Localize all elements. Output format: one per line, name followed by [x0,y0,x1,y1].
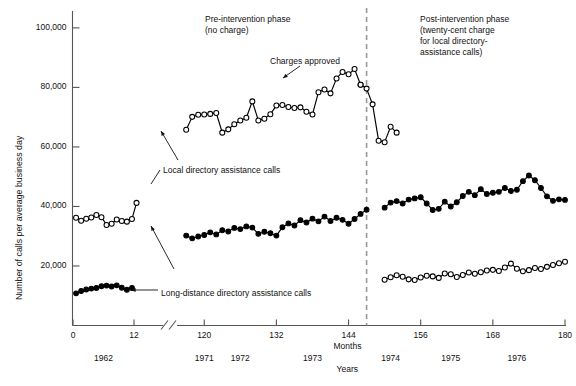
data-point [79,218,84,223]
data-point [527,173,532,178]
data-point [358,211,363,216]
data-point [124,219,129,224]
data-point [89,215,94,220]
data-point [454,274,459,279]
data-point [394,199,399,204]
data-point [556,261,561,266]
data-point [226,229,231,234]
x-axis-title: Months [334,341,362,351]
post-intervention-label-line-1: Post-intervention phase [420,14,509,25]
data-point [114,283,119,288]
data-point [232,122,237,127]
data-point [563,198,568,203]
data-point [436,206,441,211]
data-point [280,225,285,230]
data-point [539,186,544,191]
pre-intervention-label-line-2: (no charge) [205,25,291,36]
data-point [184,127,189,132]
data-point [304,220,309,225]
data-point [286,221,291,226]
data-point [502,186,507,191]
data-point [514,266,519,271]
data-point [109,221,114,226]
data-point [274,233,279,238]
data-point [190,114,195,119]
data-point [119,219,124,224]
local-series-label-line-1: Local directory assistance calls [163,165,280,176]
data-point [521,179,526,184]
data-point [545,194,550,199]
data-point [430,274,435,279]
data-point [250,99,255,104]
charges-approved-label-line-1: Charges approved [270,56,340,67]
data-point [256,118,261,123]
data-point [424,273,429,278]
data-point [316,219,321,224]
data-point [220,228,225,233]
data-point [382,277,387,282]
data-point [74,215,79,220]
data-point [388,124,393,129]
data-point [268,231,273,236]
local-series-label: Local directory assistance calls [163,165,280,176]
axis-break-slash-2 [169,321,176,330]
data-point [484,268,489,273]
data-point [292,223,297,228]
data-point [268,112,273,117]
data-point [436,275,441,280]
data-point [114,217,119,222]
data-point [124,287,129,292]
data-point [99,215,104,220]
data-point [94,213,99,218]
data-point [358,82,363,87]
data-point [382,140,387,145]
data-point [310,216,315,221]
data-point [400,274,405,279]
long-distance-series-label-line-1: Long-distance directory assistance calls [161,288,311,299]
data-point [214,111,219,116]
data-point [382,205,387,210]
x-tick-label-120: 120 [188,330,220,340]
y-tick-label-40000: 40,000 [0,200,67,210]
data-point [508,261,513,266]
data-point [533,178,538,183]
data-point [202,233,207,238]
data-point [490,190,495,195]
x-axis-years-title: Years [337,364,358,374]
data-point [298,218,303,223]
data-point [364,86,369,91]
data-point [496,269,501,274]
data-point [89,286,94,291]
x-tick-label-168: 168 [477,330,509,340]
data-point [352,217,357,222]
data-point [484,192,489,197]
data-point [478,270,483,275]
y-axis-title: Number of calls per average business day [14,136,24,300]
year-label-1973: 1973 [296,353,328,363]
data-point [412,277,417,282]
data-point [214,232,219,237]
data-point [550,263,555,268]
data-point [418,275,423,280]
data-point [328,91,333,96]
data-point [340,69,345,74]
data-point [448,204,453,209]
data-point [394,273,399,278]
data-point [472,193,477,198]
data-point [310,112,315,117]
data-point [352,66,357,71]
data-point [79,289,84,294]
data-point [134,200,139,205]
x-tick-label-0: 0 [57,330,89,340]
data-point [448,272,453,277]
data-point [256,231,261,236]
data-point [208,230,213,235]
post-intervention-label-line-3: for local directory- [420,36,509,47]
data-point [346,72,351,77]
data-point [220,130,225,135]
data-point [472,271,477,276]
charges-approved-leader-head [283,74,288,78]
data-point [322,87,327,92]
year-label-1974: 1974 [375,353,407,363]
data-point [292,105,297,110]
